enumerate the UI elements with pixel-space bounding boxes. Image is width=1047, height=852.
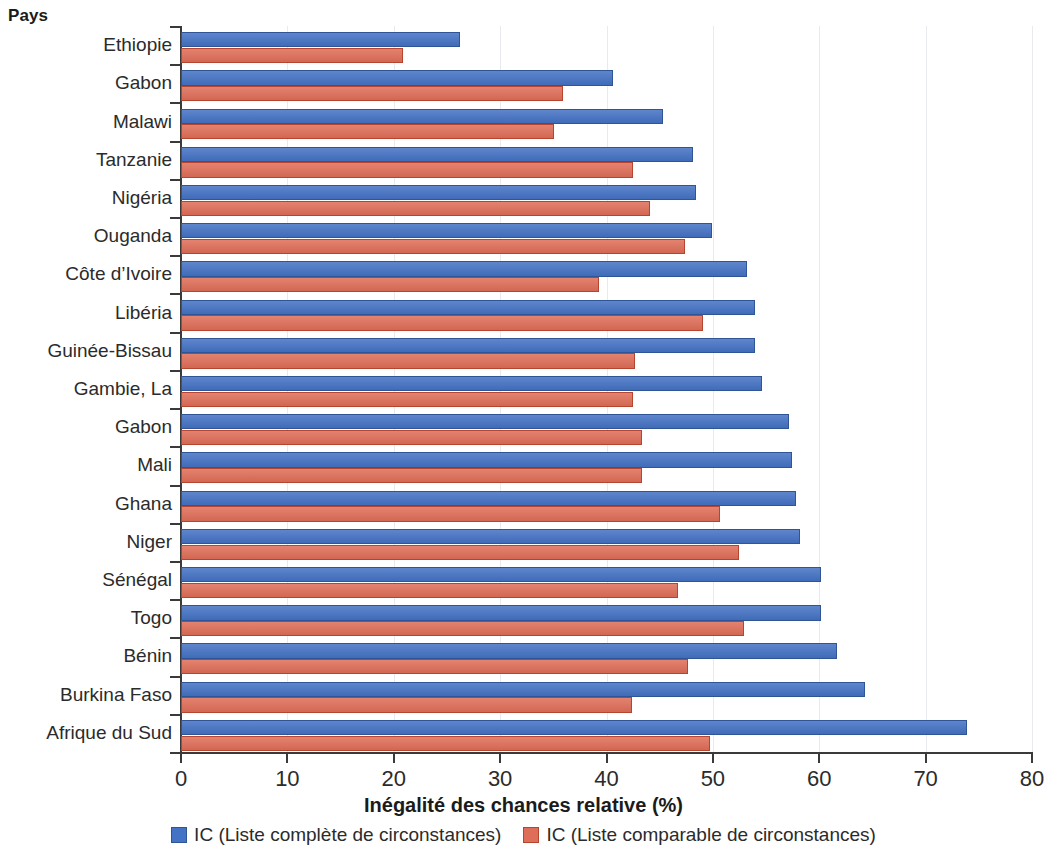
legend-item[interactable]: IC (Liste complète de circonstances) (171, 824, 501, 846)
x-axis-tick-label: 50 (701, 766, 725, 792)
bar-group (181, 676, 1032, 714)
y-axis-tick (170, 599, 181, 601)
y-axis-tick-label: Gabon (8, 73, 172, 92)
bar-series-comparable (181, 162, 633, 177)
x-axis-title: Inégalité des chances relative (%) (0, 794, 1047, 817)
bar-series-complete (181, 720, 967, 735)
bar-group (181, 141, 1032, 179)
legend-item[interactable]: IC (Liste comparable de circonstances) (523, 824, 875, 846)
legend-label: IC (Liste comparable de circonstances) (546, 824, 875, 846)
bar-series-comparable (181, 506, 720, 521)
y-axis-tick-label: Sénégal (8, 570, 172, 589)
y-axis-tick (170, 217, 181, 219)
bar-series-complete (181, 70, 613, 85)
y-axis-tick-label: Nigéria (8, 188, 172, 207)
bar-series-complete (181, 643, 837, 658)
bar-series-comparable (181, 86, 563, 101)
x-axis-tick-label: 10 (275, 766, 299, 792)
x-axis-tick (180, 752, 182, 763)
bar-series-comparable (181, 353, 635, 368)
bar-group (181, 370, 1032, 408)
bar-series-comparable (181, 239, 685, 254)
y-axis-tick-label: Ethiopie (8, 35, 172, 54)
y-axis-tick (170, 676, 181, 678)
bar-series-complete (181, 414, 789, 429)
y-axis-tick-label: Ouganda (8, 226, 172, 245)
x-axis-tick-label: 80 (1020, 766, 1044, 792)
bar-group (181, 485, 1032, 523)
bar-series-comparable (181, 659, 688, 674)
bar-group (181, 599, 1032, 637)
bar-series-complete (181, 32, 460, 47)
bar-series-complete (181, 529, 800, 544)
bar-chart: Pays EthiopieGabonMalawiTanzanieNigériaO… (0, 0, 1047, 852)
bar-series-complete (181, 261, 747, 276)
bar-series-complete (181, 185, 696, 200)
x-axis-tick-label: 40 (594, 766, 618, 792)
x-axis-tick (925, 752, 927, 763)
legend-swatch-icon (171, 827, 187, 843)
y-axis-tick (170, 64, 181, 66)
y-axis-tick-label: Tanzanie (8, 150, 172, 169)
bar-series-comparable (181, 583, 678, 598)
bar-group (181, 293, 1032, 331)
bar-group (181, 523, 1032, 561)
bar-group (181, 446, 1032, 484)
bar-series-comparable (181, 621, 744, 636)
y-axis-tick-label: Niger (8, 532, 172, 551)
bar-series-complete (181, 567, 821, 582)
bar-series-comparable (181, 277, 599, 292)
x-axis-tick (606, 752, 608, 763)
x-axis-tick-label: 30 (488, 766, 512, 792)
bar-series-complete (181, 491, 796, 506)
y-axis-tick (170, 26, 181, 28)
bar-series-comparable (181, 545, 739, 560)
bar-series-complete (181, 223, 712, 238)
gridline (1032, 26, 1033, 752)
y-axis-tick (170, 485, 181, 487)
y-axis-tick (170, 370, 181, 372)
bar-series-complete (181, 300, 755, 315)
bar-group (181, 217, 1032, 255)
bar-group (181, 561, 1032, 599)
bar-series-complete (181, 605, 821, 620)
bar-group (181, 102, 1032, 140)
bar-group (181, 179, 1032, 217)
y-axis-tick (170, 523, 181, 525)
x-axis-tick (499, 752, 501, 763)
y-axis-tick (170, 637, 181, 639)
y-axis-tick (170, 102, 181, 104)
y-axis-tick (170, 408, 181, 410)
y-axis-tick-label: Ghana (8, 494, 172, 513)
legend-label: IC (Liste complète de circonstances) (194, 824, 501, 846)
bar-series-complete (181, 682, 865, 697)
bar-series-comparable (181, 124, 554, 139)
bar-series-comparable (181, 468, 642, 483)
bar-series-complete (181, 109, 663, 124)
chart-legend: IC (Liste complète de circonstances)IC (… (0, 824, 1047, 846)
y-axis-tick-label: Bénin (8, 646, 172, 665)
y-axis-tick-label: Côte d’Ivoire (8, 264, 172, 283)
bar-series-complete (181, 338, 755, 353)
bar-group (181, 64, 1032, 102)
x-axis-tick-label: 60 (807, 766, 831, 792)
x-axis-tick-label: 20 (382, 766, 406, 792)
bar-series-comparable (181, 201, 650, 216)
x-axis-tick (286, 752, 288, 763)
x-axis-tick (712, 752, 714, 763)
x-axis-tick-label: 70 (913, 766, 937, 792)
y-axis-tick (170, 714, 181, 716)
bar-series-comparable (181, 48, 403, 63)
bar-group (181, 637, 1032, 675)
y-axis-tick (170, 255, 181, 257)
y-axis-tick-label: Mali (8, 455, 172, 474)
y-axis-tick-label: Togo (8, 608, 172, 627)
bar-series-complete (181, 147, 693, 162)
y-axis-tick (170, 141, 181, 143)
bar-series-comparable (181, 392, 633, 407)
y-axis-tick (170, 332, 181, 334)
y-axis-tick-label: Gabon (8, 417, 172, 436)
bar-series-comparable (181, 697, 632, 712)
y-axis-tick-label: Malawi (8, 112, 172, 131)
y-axis-tick (170, 179, 181, 181)
